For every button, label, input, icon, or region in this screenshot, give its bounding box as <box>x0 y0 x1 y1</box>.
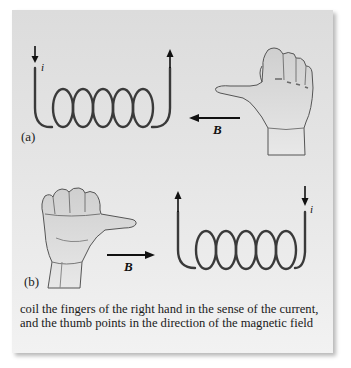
current-label-b: i <box>310 203 313 215</box>
exit-arrow-b <box>175 191 182 212</box>
coil-a <box>35 68 170 127</box>
part-a-label: (a) <box>21 129 35 145</box>
coil-b <box>178 212 305 269</box>
exit-arrow-a <box>167 49 174 68</box>
part-b-label: (b) <box>24 274 39 290</box>
caption-line-1: coil the fingers of the right hand in th… <box>20 302 320 316</box>
figure-caption: coil the fingers of the right hand in th… <box>20 302 320 330</box>
field-label-a: B <box>213 122 222 138</box>
current-label-a: i <box>41 61 44 73</box>
field-label-b: B <box>124 259 133 275</box>
current-arrow-a <box>32 46 39 63</box>
caption-line-2: and the thumb points in the direction of… <box>20 316 320 330</box>
right-hand-a <box>216 48 314 155</box>
field-arrow-a <box>189 114 240 122</box>
right-hand-b <box>42 188 136 288</box>
field-arrow-b <box>107 251 155 259</box>
current-arrow-b <box>302 186 309 206</box>
